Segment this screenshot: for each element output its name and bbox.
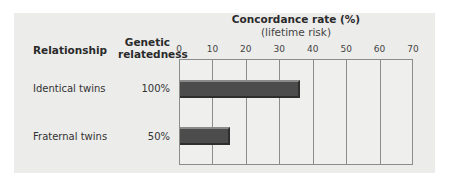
gridline [346,60,347,164]
row-label-fraternal: Fraternal twins [33,131,107,142]
relatedness-header-line1: Genetic [118,36,170,48]
x-tick-label: 70 [407,44,418,54]
row-label-identical: Identical twins [33,83,106,94]
chart-subtitle: (lifetime risk) [179,26,413,38]
gridline [246,60,247,164]
gridline [380,60,381,164]
bar-fraternal-twins [180,127,230,145]
x-tick-label: 10 [207,44,218,54]
x-tick-label: 60 [374,44,385,54]
x-tick-label: 0 [176,44,182,54]
bar-identical-twins [180,80,300,98]
x-tick-label: 40 [307,44,318,54]
gridline [212,60,213,164]
chart-title: Concordance rate (%) [179,13,413,25]
relatedness-fraternal: 50% [120,131,170,142]
relatedness-identical: 100% [120,83,170,94]
x-tick-label: 50 [340,44,351,54]
x-tick-label: 20 [240,44,251,54]
gridline [313,60,314,164]
relatedness-header: Genetic relatedness [118,36,170,60]
x-tick-label: 30 [274,44,285,54]
relatedness-header-line2: relatedness [118,48,170,60]
gridline [279,60,280,164]
plot-area [179,59,413,165]
relationship-header: Relationship [33,44,107,56]
